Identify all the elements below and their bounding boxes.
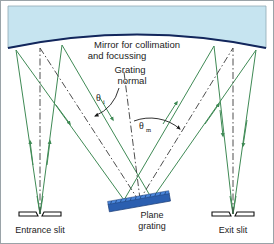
exit-slit-jaw-left (212, 212, 231, 216)
entrance-slit-jaw-left (19, 212, 38, 216)
grating-normal-label-line2: normal (117, 75, 146, 86)
plane-grating-label-line1: Plane (140, 210, 163, 220)
plane-grating-label-line2: grating (138, 221, 166, 231)
exit-slit-label: Exit slit (219, 225, 248, 235)
entrance-slit-jaw-right (42, 212, 61, 216)
optical-diagram-figure: Mirror for collimation and focussing Gra… (0, 0, 274, 244)
angle-diffracted-label: θ (139, 120, 144, 131)
angle-incident-label: θ (96, 92, 101, 103)
angle-incident-subscript: i (103, 98, 105, 105)
entrance-slit-label: Entrance slit (15, 225, 65, 235)
mirror-label-line2: and focussing (88, 50, 147, 61)
exit-slit-jaw-right (235, 212, 254, 216)
angle-diffracted-subscript: m (146, 126, 151, 133)
mirror-label-line1: Mirror for collimation (94, 39, 180, 50)
ray-diagram-canvas: Mirror for collimation and focussing Gra… (0, 0, 274, 244)
grating-normal-label-line1: Grating (114, 64, 145, 75)
